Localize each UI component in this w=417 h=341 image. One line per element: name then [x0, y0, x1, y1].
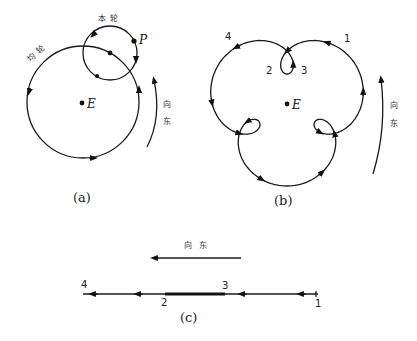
caption-c: (c): [180, 310, 197, 325]
earth-dot-b: [285, 102, 290, 107]
point-label-4-b: 4: [225, 31, 231, 42]
planet-dot: [131, 38, 136, 43]
retrograde-path: [211, 41, 364, 187]
epicycle-diagram: E P 均轮 本轮 向 东 (a) E 1 2 3 4 向 东 (b): [0, 0, 417, 341]
path-direction-arrow: [335, 134, 336, 137]
path-direction-arrow: [258, 177, 262, 180]
path-direction-arrow: [247, 120, 249, 121]
figure-a: E P 均轮 本轮 向 东 (a): [25, 13, 171, 205]
direction-label-a-1: 向: [163, 99, 171, 109]
point-label-4-c: 4: [81, 279, 87, 290]
path-direction-arrow: [287, 49, 290, 51]
point-label-2-c: 2: [161, 297, 167, 308]
figure-c: 向 东 4 2 3 1 (c): [81, 240, 321, 325]
planet-label: P: [138, 33, 148, 47]
point-label-1-b: 1: [344, 33, 350, 44]
point-label-1-c: 1: [315, 298, 321, 309]
epicycle-marker: [95, 74, 99, 78]
path-direction-arrow: [327, 42, 332, 44]
earth-label-b: E: [291, 98, 301, 112]
direction-label-c: 向 东: [184, 240, 209, 250]
earth-label: E: [86, 97, 96, 111]
eastward-arrow-a: [147, 80, 157, 147]
path-direction-arrow: [211, 99, 212, 104]
figure-b: E 1 2 3 4 向 东 (b): [211, 31, 398, 208]
caption-a: (a): [73, 190, 91, 205]
point-label-3-b: 3: [301, 65, 307, 76]
eastward-arrow-b: [373, 79, 383, 174]
epicycle-center-dot: [108, 51, 113, 56]
point-label-2-b: 2: [266, 65, 272, 76]
caption-b: (b): [274, 193, 292, 208]
direction-label-b-2: 东: [390, 118, 398, 128]
epicycle-label: 本轮: [98, 13, 122, 23]
point-label-3-c: 3: [222, 280, 228, 291]
earth-dot: [80, 101, 85, 106]
direction-label-a-2: 东: [163, 116, 171, 126]
direction-label-b-1: 向: [390, 100, 398, 110]
path-direction-arrow: [319, 172, 323, 175]
